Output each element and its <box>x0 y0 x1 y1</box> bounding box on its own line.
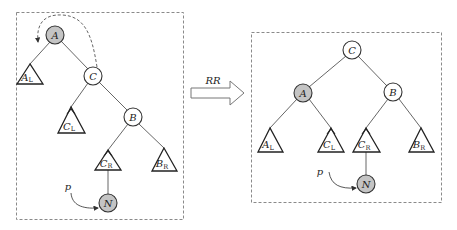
node-B: B <box>384 83 402 101</box>
before-tree-panel: A C B N AL CL CR <box>17 13 184 220</box>
node-C: C <box>343 41 361 59</box>
svg-text:C: C <box>89 71 97 82</box>
edge-B-CR <box>108 124 128 150</box>
rotation-arc-arrow <box>38 15 97 67</box>
edge-A-AL <box>270 99 297 128</box>
svg-text:A: A <box>50 30 58 41</box>
edge-C-CL <box>71 83 88 107</box>
pointer-arrow <box>71 193 98 208</box>
edge-A-AL <box>30 42 50 64</box>
svg-text:B: B <box>388 87 396 98</box>
subtree-CR: CR <box>353 128 380 152</box>
pointer-p: p <box>317 166 356 188</box>
svg-text:p: p <box>317 166 324 177</box>
svg-text:C: C <box>348 45 356 56</box>
svg-text:N: N <box>103 198 114 209</box>
before-panel-border <box>17 13 184 220</box>
edge-B-BR <box>399 99 421 128</box>
node-B: B <box>124 108 142 126</box>
subtree-CL: CL <box>318 128 344 152</box>
edge-C-B <box>358 56 387 86</box>
subtree-CL: CL <box>58 107 85 133</box>
node-A: A <box>294 84 312 102</box>
edge-C-A <box>309 56 346 87</box>
svg-text:B: B <box>128 112 136 123</box>
svg-text:RR: RR <box>204 75 221 86</box>
rr-rotation-diagram: A C B N AL CL CR <box>0 0 457 230</box>
subtree-BR: BR <box>409 128 434 152</box>
svg-text:N: N <box>361 179 372 190</box>
pointer-arrow <box>329 172 356 188</box>
edge-A-CL <box>309 99 331 128</box>
edge-A-C <box>61 41 88 69</box>
after-tree-panel: C A B N AL CL CR <box>252 33 442 203</box>
subtree-AL: AL <box>258 128 283 152</box>
node-C: C <box>84 67 102 85</box>
subtree-CR: CR <box>95 150 121 170</box>
edge-B-BR <box>139 124 164 148</box>
edge-C-B <box>99 82 127 110</box>
node-A: A <box>46 26 64 44</box>
subtree-BR: BR <box>152 148 177 171</box>
node-N: N <box>357 175 375 193</box>
svg-text:p: p <box>65 181 72 192</box>
rr-transform-arrow: RR <box>191 75 244 105</box>
svg-text:A: A <box>298 88 306 99</box>
node-N: N <box>99 194 117 212</box>
edge-B-CR <box>366 99 388 128</box>
subtree-AL: AL <box>17 64 43 84</box>
pointer-p: p <box>65 181 98 208</box>
